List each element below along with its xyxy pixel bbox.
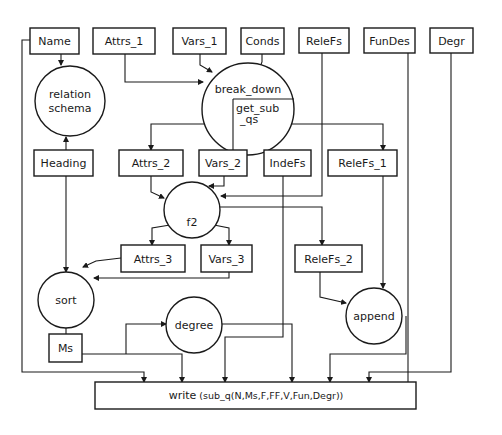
- box-vars-2-label: Vars_2: [205, 157, 241, 170]
- box-vars-3-label: Vars_3: [208, 253, 244, 266]
- box-indefs-label: IndeFs: [269, 157, 305, 170]
- edge-f2-attrs3: [152, 225, 170, 245]
- box-relefs-1-label: ReleFs_1: [338, 157, 386, 170]
- process-sort[interactable]: sort: [38, 272, 94, 328]
- box-vars-1-label: Vars_1: [181, 35, 217, 48]
- edge-break-down-relefs1: [276, 124, 383, 150]
- edge-attrs1-break-down: [125, 54, 203, 82]
- break-down-label: break_down: [215, 83, 281, 96]
- process-degree[interactable]: degree: [166, 297, 222, 353]
- edge-vars1-break-down: [200, 54, 212, 72]
- box-vars-2[interactable]: Vars_2: [199, 150, 247, 176]
- box-attrs-3-label: Attrs_3: [134, 253, 173, 266]
- box-degr-label: Degr: [438, 35, 465, 48]
- process-relation-schema[interactable]: relation schema: [35, 66, 105, 136]
- box-attrs-1[interactable]: Attrs_1: [93, 28, 155, 54]
- box-write[interactable]: write(sub_q(N,Ms,F,FF,V,Fun,Degr)): [95, 382, 416, 409]
- write-label: write(sub_q(N,Ms,F,FF,V,Fun,Degr)): [169, 389, 344, 402]
- edge-f2-relefs2: [220, 207, 322, 245]
- edge-ms-write: [82, 354, 182, 382]
- edge-vars2-f2: [209, 176, 224, 186]
- edge-relefs2-append: [320, 272, 346, 303]
- box-name-label: Name: [38, 35, 71, 48]
- process-break-down[interactable]: break_down get_sub _qs: [202, 63, 294, 155]
- box-conds[interactable]: Conds: [241, 28, 284, 54]
- edge-vars3-sort: [94, 272, 229, 278]
- edge-degree-write: [222, 324, 292, 382]
- box-relefs-2[interactable]: ReleFs_2: [295, 245, 362, 272]
- edge-attrs2-f2: [151, 176, 164, 198]
- relation-schema-label-1: relation: [49, 88, 91, 101]
- box-conds-label: Conds: [245, 35, 279, 48]
- write-args: (sub_q(N,Ms,F,FF,V,Fun,Degr)): [199, 390, 343, 401]
- box-attrs-2-label: Attrs_2: [132, 157, 171, 170]
- box-relefs-label: ReleFs: [306, 35, 342, 48]
- box-ms-label: Ms: [58, 342, 73, 355]
- edge-ms-degree: [126, 324, 166, 354]
- append-label: append: [353, 310, 394, 323]
- box-attrs-1-label: Attrs_1: [105, 35, 144, 48]
- relation-schema-label-2: schema: [49, 102, 92, 115]
- data-flow-diagram: Name Attrs_1 Vars_1 Conds ReleFs FunDes …: [0, 0, 502, 435]
- f2-label: f2: [187, 216, 198, 229]
- box-relefs-1[interactable]: ReleFs_1: [328, 150, 397, 176]
- process-append[interactable]: append: [346, 288, 402, 344]
- edge-f2-vars3: [214, 225, 229, 245]
- get-sub-qs-label-2: _qs: [239, 113, 258, 126]
- box-vars-1[interactable]: Vars_1: [173, 28, 226, 54]
- box-indefs[interactable]: IndeFs: [264, 150, 311, 176]
- box-degr[interactable]: Degr: [430, 28, 473, 53]
- box-relefs[interactable]: ReleFs: [299, 28, 349, 53]
- write-prefix: write: [169, 389, 197, 402]
- edge-attrs3-sort: [83, 258, 121, 267]
- box-name[interactable]: Name: [30, 28, 79, 54]
- box-relefs-2-label: ReleFs_2: [304, 253, 352, 266]
- box-attrs-2[interactable]: Attrs_2: [119, 150, 183, 176]
- box-heading-label: Heading: [41, 157, 87, 170]
- sort-label: sort: [55, 294, 77, 307]
- box-fundes-label: FunDes: [369, 35, 410, 48]
- process-f2[interactable]: f2: [164, 182, 220, 238]
- box-heading[interactable]: Heading: [34, 150, 93, 176]
- box-ms[interactable]: Ms: [49, 334, 82, 362]
- box-fundes[interactable]: FunDes: [364, 28, 415, 53]
- box-vars-3[interactable]: Vars_3: [201, 245, 252, 272]
- degree-label: degree: [175, 319, 214, 332]
- box-attrs-3[interactable]: Attrs_3: [121, 245, 185, 272]
